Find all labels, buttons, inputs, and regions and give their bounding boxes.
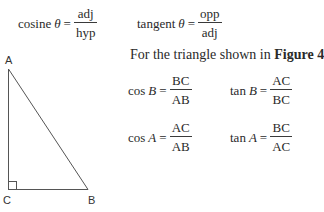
- vertex-label-c: C: [3, 194, 11, 206]
- vertex-label-b: B: [88, 194, 95, 206]
- triangle-outline: [9, 69, 89, 190]
- right-angle-marker: [9, 182, 17, 190]
- vertex-label-a: A: [5, 54, 12, 66]
